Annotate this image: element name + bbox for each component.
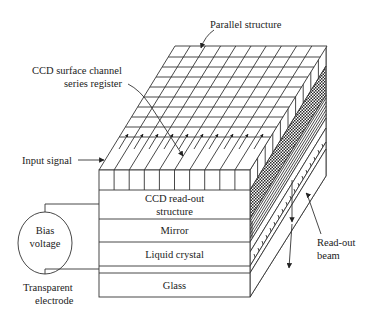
ccd-register-label-2: series register	[64, 78, 123, 89]
layer-liquid-crystal-label: Liquid crystal	[145, 249, 204, 260]
bias-voltage-source: Bias voltage	[18, 204, 99, 274]
input-signal-label: Input signal	[22, 155, 72, 166]
lclv-ccd-diagram: CCD read-out structure Mirror Liquid cry…	[0, 0, 377, 320]
bias-label-2: voltage	[30, 238, 61, 249]
readout-beam-label-1: Read-out	[317, 237, 356, 248]
readout-beam-pointer	[307, 194, 321, 234]
bias-label-1: Bias	[36, 225, 55, 236]
layer-ccd-readout-label-2: structure	[156, 206, 193, 217]
front-face: CCD read-out structure Mirror Liquid cry…	[99, 170, 250, 297]
parallel-structure-arrow	[201, 30, 214, 48]
readout-beam-label-2: beam	[317, 250, 340, 261]
transparent-electrode-label-2: electrode	[35, 295, 74, 306]
ccd-register-label-1: CCD surface channel	[32, 65, 122, 76]
layer-ccd-readout-label-1: CCD read-out	[145, 193, 204, 204]
layer-mirror-label: Mirror	[161, 225, 189, 236]
parallel-structure-label: Parallel structure	[210, 19, 282, 30]
transparent-electrode-label-1: Transparent	[23, 282, 73, 293]
layer-glass-label: Glass	[163, 280, 186, 291]
